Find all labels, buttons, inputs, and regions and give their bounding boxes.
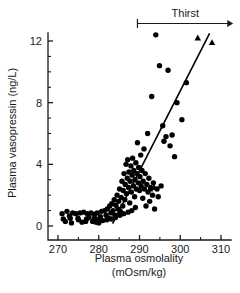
data-point-circle (132, 194, 137, 199)
data-point-circle (109, 216, 114, 221)
data-point-circle (120, 203, 125, 208)
data-point-circle (140, 196, 145, 201)
data-point-circle (152, 206, 157, 211)
data-point-circle (150, 192, 155, 197)
y-tick-label-8: 8 (36, 97, 42, 109)
data-point-circle (84, 216, 89, 221)
data-point-circle (76, 217, 81, 222)
data-point-circle (179, 117, 184, 122)
x-axis-units-label: (mOsm/kg) (112, 266, 166, 278)
data-point-circle (184, 80, 189, 85)
data-point-circle (64, 209, 69, 214)
data-point-circle (161, 139, 166, 144)
data-point-circle (110, 208, 115, 213)
vasopressin-osmolality-scatter-figure: Thirst 27028029030031004812 Plasma osmol… (0, 0, 240, 293)
data-point-circle (172, 154, 177, 159)
data-point-circle (133, 205, 138, 210)
data-point-circle (137, 174, 142, 179)
y-tick-label-12: 12 (30, 35, 42, 47)
data-point-circle (143, 203, 148, 208)
data-point-circle (121, 171, 126, 176)
data-point-circle (133, 160, 138, 165)
y-axis-title: Plasma vasopressin (ng/L) (6, 68, 18, 198)
data-point-circle (129, 172, 134, 177)
data-point-circle (92, 216, 97, 221)
data-point-circle (160, 123, 165, 128)
data-point-circle (149, 94, 154, 99)
data-point-circle (156, 194, 161, 199)
data-point-circle (151, 180, 156, 185)
data-point-circle (122, 197, 127, 202)
data-point-circle (157, 63, 162, 68)
data-point-circle (158, 183, 163, 188)
data-point-circle (97, 216, 102, 221)
y-tick-label-4: 4 (36, 158, 42, 170)
data-point-circle (68, 216, 73, 221)
data-point-circle (125, 157, 130, 162)
data-point-circle (153, 32, 158, 37)
x-tick-label-270: 270 (49, 243, 67, 255)
data-point-circle (130, 155, 135, 160)
data-point-circle (137, 188, 142, 193)
x-axis-title: Plasma osmolality (95, 252, 184, 264)
data-point-circle (147, 199, 152, 204)
data-point-circle (141, 146, 146, 151)
x-tick-label-310: 310 (212, 243, 230, 255)
data-point-circle (129, 189, 134, 194)
data-point-circle (135, 140, 140, 145)
data-point-circle (165, 68, 170, 73)
y-tick-label-0: 0 (36, 220, 42, 232)
data-point-circle (126, 185, 131, 190)
data-point-circle (174, 100, 179, 105)
data-point-circle (138, 152, 143, 157)
data-point-circle (128, 163, 133, 168)
chart-canvas: Thirst 27028029030031004812 Plasma osmol… (0, 0, 240, 293)
data-point-circle (146, 176, 151, 181)
data-point-circle (163, 134, 168, 139)
data-point-circle (104, 217, 109, 222)
data-point-circle (127, 200, 132, 205)
data-point-circle (59, 211, 64, 216)
data-point-circle (167, 143, 172, 148)
data-point-circle (63, 219, 68, 224)
data-point-circle (127, 179, 132, 184)
data-point-circle (143, 171, 148, 176)
data-point-circle (123, 162, 128, 167)
data-point-circle (145, 131, 150, 136)
data-point-circle (124, 191, 129, 196)
thirst-threshold-arrow-label: Thirst (172, 7, 200, 19)
data-point-circle (69, 220, 74, 225)
data-point-circle (169, 132, 174, 137)
